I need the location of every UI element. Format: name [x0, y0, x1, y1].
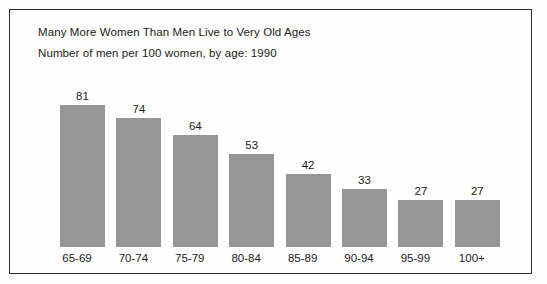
bar [398, 200, 443, 247]
bar-group: 33 [342, 72, 387, 247]
bar-value-label: 27 [398, 184, 443, 198]
category-label: 75-79 [164, 251, 216, 265]
category-label: 90-94 [333, 251, 385, 265]
category-label: 85-89 [277, 251, 329, 265]
chart-subtitle: Number of men per 100 women, by age: 199… [38, 47, 277, 59]
bar [116, 118, 161, 248]
bar-value-label: 42 [286, 158, 331, 172]
category-label: 80-84 [220, 251, 272, 265]
category-label: 100+ [446, 251, 498, 265]
chart-figure: Many More Women Than Men Live to Very Ol… [0, 0, 547, 284]
category-label: 65-69 [51, 251, 103, 265]
bar-group: 64 [173, 72, 218, 247]
category-label: 95-99 [389, 251, 441, 265]
bar-value-label: 53 [229, 138, 274, 152]
bar [60, 105, 105, 247]
chart-title: Many More Women Than Men Live to Very Ol… [38, 26, 311, 38]
chart-frame: Many More Women Than Men Live to Very Ol… [9, 9, 532, 274]
bar-group: 74 [116, 72, 161, 247]
bar [173, 135, 218, 247]
bar-group: 27 [455, 72, 500, 247]
category-label: 70-74 [107, 251, 159, 265]
bar [342, 189, 387, 247]
bar [455, 200, 500, 247]
bar-group: 27 [398, 72, 443, 247]
bar-value-label: 27 [455, 184, 500, 198]
bar-value-label: 33 [342, 173, 387, 187]
bar-group: 81 [60, 72, 105, 247]
bar [229, 154, 274, 247]
bar-value-label: 74 [116, 102, 161, 116]
bar-value-label: 64 [173, 119, 218, 133]
bar-group: 42 [286, 72, 331, 247]
bar [286, 174, 331, 248]
plot-area: 8174645342332727 [60, 72, 512, 247]
bar-value-label: 81 [60, 89, 105, 103]
bar-group: 53 [229, 72, 274, 247]
